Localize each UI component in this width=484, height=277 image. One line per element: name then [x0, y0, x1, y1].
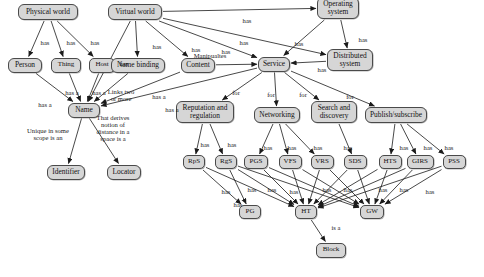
node-ht[interactable]: HT	[295, 205, 317, 219]
edge-label-l39: has	[323, 186, 332, 193]
edge-label-l10: has	[359, 36, 368, 43]
edge-label-l29: has	[288, 144, 297, 151]
edge-rgs-to-pg	[230, 170, 246, 204]
node-pgs[interactable]: PGS	[244, 155, 268, 169]
edge-label-l3: has	[91, 39, 100, 46]
edge-label-l7: has	[240, 39, 249, 46]
edge-label-l9: has	[295, 40, 304, 47]
edge-label-l24: for	[299, 91, 307, 98]
edge-label-l33: has	[424, 144, 433, 151]
edge-label-l44: has	[234, 201, 243, 208]
edge-distributed_sys-to-service	[291, 61, 326, 63]
edge-label-l35: has	[222, 188, 231, 195]
node-rgs[interactable]: RgS	[215, 155, 237, 169]
edge-label-l19: has a	[165, 106, 178, 113]
edge-label-l32: has	[400, 144, 409, 151]
node-identifier[interactable]: Identifier	[47, 165, 85, 180]
edge-reputation-to-rgs	[210, 124, 223, 154]
edge-label-l2: has	[67, 39, 76, 46]
edge-content-to-service	[216, 64, 257, 65]
edge-label-l23: for	[267, 91, 275, 98]
edge-pubsub-to-hts	[391, 124, 395, 154]
node-vfs[interactable]: VFS	[279, 155, 302, 169]
edge-label-l22: for	[232, 89, 240, 96]
node-block[interactable]: Block	[316, 243, 346, 258]
concept-map-canvas: Physical worldVirtual worldOperating sys…	[0, 0, 484, 277]
edge-label-l11: has	[318, 66, 327, 73]
node-distributed_sys[interactable]: Distributed system	[327, 49, 373, 71]
edge-pss-to-gw	[385, 170, 442, 205]
node-vrs[interactable]: VRS	[311, 155, 334, 169]
node-operating_system[interactable]: Operating system	[317, 0, 359, 19]
edge-label-l12: Manipualtes	[194, 52, 227, 59]
edge-service-to-networking	[275, 73, 277, 107]
edge-label-l15: has a	[92, 89, 105, 96]
node-reputation[interactable]: Reputation and regulation	[176, 101, 234, 123]
edge-label-l6: has	[243, 17, 252, 24]
node-search_discovery[interactable]: Search and discovery	[311, 101, 357, 123]
node-content[interactable]: Content	[181, 58, 215, 73]
edge-label-l34: has	[445, 144, 454, 151]
edge-label-l18: has a	[152, 93, 165, 100]
edge-label-l1: has	[41, 39, 50, 46]
node-sds[interactable]: SDS	[344, 155, 367, 169]
edge-label-l31: has	[344, 144, 353, 151]
node-locator[interactable]: Locator	[107, 165, 141, 180]
edge-label-l37: has	[268, 186, 277, 193]
node-rps[interactable]: RpS	[183, 155, 205, 169]
edge-label-l14: has a	[65, 89, 78, 96]
edge-label-l42: has	[400, 186, 409, 193]
node-pss[interactable]: PSS	[443, 155, 466, 169]
edge-virtual_world-to-name_binding	[136, 21, 138, 57]
edge-label-l20: Unique in some scope is an	[27, 127, 69, 141]
edge-label-l27: has	[228, 141, 237, 148]
edge-label-l30: has	[314, 144, 323, 151]
edge-ht-to-block	[311, 220, 325, 242]
node-service[interactable]: Service	[258, 57, 290, 72]
edge-label-l26: has	[201, 141, 210, 148]
node-name[interactable]: Name	[68, 103, 100, 118]
node-gw[interactable]: GW	[360, 205, 384, 219]
edge-name-to-identifier	[69, 119, 82, 164]
edge-label-l25: for	[346, 93, 354, 100]
node-networking[interactable]: Networking	[254, 107, 300, 123]
edge-label-l43: has	[426, 188, 435, 195]
node-thing[interactable]: Thing	[51, 58, 81, 73]
edge-label-l40: has	[344, 186, 353, 193]
node-virtual_world[interactable]: Virtual world	[108, 4, 162, 20]
edge-operating_system-to-distributed_sys	[341, 20, 347, 48]
edge-virtual_world-to-operating_system	[163, 8, 316, 11]
edge-thing-to-name	[69, 74, 80, 102]
node-girs[interactable]: GIRS	[407, 155, 434, 169]
edge-label-l16: has a	[38, 101, 51, 108]
edge-label-l4: has	[153, 43, 162, 50]
edge-label-l17: Links two or more	[108, 88, 135, 102]
edge-service-to-reputation	[222, 73, 261, 101]
edge-person-to-name	[36, 74, 73, 102]
edge-label-l36: has	[248, 186, 257, 193]
edge-reputation-to-rps	[196, 124, 203, 154]
edge-rps-to-pg	[203, 170, 241, 204]
node-hts[interactable]: HTS	[379, 155, 402, 169]
edge-virtual_world-to-content	[146, 21, 188, 57]
edge-operating_system-to-service	[284, 20, 325, 56]
edge-label-l41: has	[379, 186, 388, 193]
edge-label-l21: That derives notion of distance in a spa…	[97, 114, 130, 142]
edge-label-l28: has	[264, 144, 273, 151]
edge-physical_world-to-thing	[51, 21, 63, 57]
edge-networking-to-vfs	[280, 124, 288, 154]
edge-label-l13: has	[120, 60, 129, 67]
node-physical_world[interactable]: Physical world	[18, 4, 78, 20]
edge-label-l45: is a	[332, 224, 341, 231]
node-pubsub[interactable]: Publish/subscribe	[365, 107, 427, 123]
node-person[interactable]: Person	[8, 58, 42, 73]
edge-label-l38: has	[290, 188, 299, 195]
edge-host-to-name	[87, 74, 98, 102]
